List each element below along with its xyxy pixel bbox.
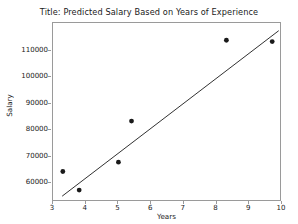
- x-axis-label: Years: [52, 212, 281, 221]
- chart-figure: Title: Predicted Salary Based on Years o…: [0, 0, 298, 224]
- x-axis-tick-label: 3: [50, 204, 54, 212]
- y-axis-tick-mark: [48, 156, 51, 157]
- y-axis-tick-mark: [48, 103, 51, 104]
- data-point-marker: [270, 39, 275, 44]
- regression-line: [62, 31, 279, 196]
- y-axis-tick-mark: [48, 129, 51, 130]
- y-axis-tick-mark: [48, 76, 51, 77]
- x-axis-tick-label: 8: [213, 204, 217, 212]
- x-axis-tick-mark: [85, 201, 86, 204]
- x-axis-tick-label: 5: [115, 204, 119, 212]
- data-point-marker: [60, 169, 65, 174]
- y-axis-label: Salary: [5, 81, 14, 131]
- y-axis-tick-label: 70000: [26, 152, 48, 160]
- x-axis-tick-label: 4: [82, 204, 86, 212]
- plot-canvas: [53, 23, 282, 202]
- x-axis-tick-mark: [150, 201, 151, 204]
- y-axis-tick-label: 100000: [21, 72, 48, 80]
- plot-area: [52, 22, 281, 201]
- y-axis-tick-label: 90000: [26, 99, 48, 107]
- y-axis-tick-mark: [48, 182, 51, 183]
- x-axis-tick-label: 6: [148, 204, 152, 212]
- y-axis-tick-label: 80000: [26, 125, 48, 133]
- x-axis-tick-mark: [281, 201, 282, 204]
- data-point-marker: [116, 160, 121, 165]
- x-axis-tick-label: 10: [277, 204, 286, 212]
- data-point-marker: [224, 38, 229, 43]
- x-axis-tick-mark: [216, 201, 217, 204]
- y-axis-tick-label: 110000: [21, 46, 48, 54]
- x-axis-tick-label: 9: [246, 204, 250, 212]
- y-axis-tick-mark: [48, 50, 51, 51]
- x-axis-tick-mark: [52, 201, 53, 204]
- x-axis-tick-label: 7: [181, 204, 185, 212]
- x-axis-tick-mark: [183, 201, 184, 204]
- data-point-marker: [77, 188, 82, 193]
- x-axis-tick-mark: [248, 201, 249, 204]
- x-axis-tick-mark: [117, 201, 118, 204]
- y-axis-tick-label: 60000: [26, 178, 48, 186]
- data-point-marker: [129, 119, 134, 124]
